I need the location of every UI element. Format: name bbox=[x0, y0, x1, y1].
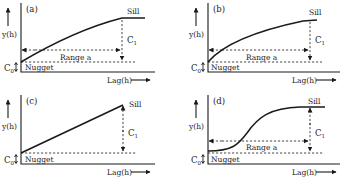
sill-label: Sill bbox=[308, 97, 321, 106]
c0-double-arrow-icon bbox=[15, 63, 18, 72]
nugget-label: Nugget bbox=[211, 155, 239, 164]
variogram-curve bbox=[21, 105, 123, 153]
panel-b: (b) y(h) Lag(h) Sill C1 Range a Nugget C… bbox=[188, 3, 340, 85]
x-axis-label: Lag(h) bbox=[292, 76, 317, 85]
nugget-label: Nugget bbox=[25, 155, 53, 164]
c0-double-arrow-icon bbox=[202, 155, 205, 164]
c0-label: C0 bbox=[4, 155, 15, 166]
sill-label: Sill bbox=[309, 8, 322, 17]
x-axis-label: Lag(h) bbox=[107, 76, 132, 85]
panel-label: (b) bbox=[213, 4, 225, 14]
panel-d: (d) y(h) Lag(h) Sill C1 Range a Nugget C… bbox=[188, 95, 340, 177]
c1-label: C1 bbox=[315, 35, 325, 46]
panel-label: (a) bbox=[26, 4, 38, 14]
c0-double-arrow-icon bbox=[15, 155, 18, 164]
x-axis-label: Lag(h) bbox=[107, 168, 132, 177]
c1-label: C1 bbox=[127, 35, 137, 46]
range-label: Range a bbox=[246, 53, 278, 62]
c0-double-arrow-icon bbox=[202, 63, 205, 72]
nugget-label: Nugget bbox=[25, 63, 53, 72]
y-axis-label: y(h) bbox=[1, 30, 17, 39]
c0-label: C0 bbox=[4, 63, 15, 74]
nugget-label: Nugget bbox=[211, 63, 239, 72]
c0-label: C0 bbox=[191, 155, 202, 166]
sill-label: Sill bbox=[129, 100, 142, 109]
panel-label: (c) bbox=[26, 96, 37, 106]
range-label: Range a bbox=[246, 143, 278, 152]
panel-a: (a) y(h) Lag(h) Sill C1 Range a Nugget C… bbox=[1, 3, 155, 85]
range-label: Range a bbox=[60, 53, 92, 62]
c1-label: C1 bbox=[315, 128, 325, 139]
variogram-figure: (a) y(h) Lag(h) Sill C1 Range a Nugget C… bbox=[0, 0, 346, 180]
x-axis-label: Lag(h) bbox=[292, 168, 317, 177]
panel-label: (d) bbox=[213, 96, 225, 106]
sill-label: Sill bbox=[127, 7, 140, 16]
panel-c: (c) y(h) Lag(h) Sill C1 Nugget C0 bbox=[1, 95, 155, 177]
c1-label: C1 bbox=[128, 128, 138, 139]
c0-label: C0 bbox=[191, 63, 202, 74]
y-axis-label: y(h) bbox=[1, 122, 17, 131]
y-axis-label: y(h) bbox=[188, 122, 204, 131]
y-axis-label: y(h) bbox=[188, 30, 204, 39]
